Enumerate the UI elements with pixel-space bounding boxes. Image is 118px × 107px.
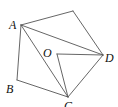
geometry-figure: A O D B C <box>0 0 118 107</box>
label-d: D <box>104 51 114 65</box>
segment-a-top <box>21 11 73 25</box>
segment-a-b <box>17 25 21 80</box>
segment-o-c <box>57 54 68 97</box>
segment-o-d <box>57 54 103 55</box>
segment-a-c <box>21 25 68 97</box>
label-b: B <box>6 82 14 96</box>
label-c: C <box>64 99 73 107</box>
label-a: A <box>8 18 17 32</box>
segments <box>17 11 103 97</box>
labels: A O D B C <box>6 18 114 107</box>
segment-a-d <box>21 25 103 55</box>
label-o: O <box>43 46 52 60</box>
segment-b-c <box>17 80 68 97</box>
segment-c-d <box>68 55 103 97</box>
segment-top-d <box>73 11 103 55</box>
